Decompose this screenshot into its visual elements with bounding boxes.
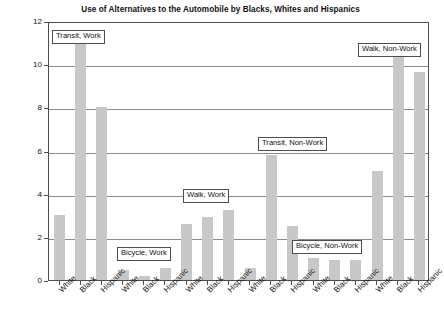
gridline xyxy=(49,66,428,67)
y-tick-label: 2 xyxy=(16,233,42,242)
plot-area xyxy=(48,22,429,281)
annotation-label: Walk, Work xyxy=(183,189,229,203)
bar xyxy=(414,72,425,280)
bar xyxy=(160,268,171,280)
bar xyxy=(223,210,234,280)
y-tick-mark xyxy=(44,281,48,282)
y-tick-label: 6 xyxy=(16,147,42,156)
annotation-label: Transit, Work xyxy=(52,30,105,44)
bar xyxy=(372,171,383,280)
bar xyxy=(75,36,86,280)
y-tick-label: 4 xyxy=(16,190,42,199)
bar xyxy=(266,155,277,280)
bar xyxy=(329,260,340,281)
y-tick-label: 8 xyxy=(16,103,42,112)
bar xyxy=(350,260,361,281)
bar xyxy=(393,49,404,280)
annotation-label: Bicycle, Non-Work xyxy=(292,240,362,254)
bar xyxy=(54,215,65,280)
annotation-label: Transit, Non-Work xyxy=(258,137,327,151)
bar xyxy=(202,217,213,280)
annotation-label: Bicycle, Work xyxy=(117,247,171,261)
bar xyxy=(96,107,107,280)
y-tick-label: 12 xyxy=(16,17,42,26)
y-tick-label: 0 xyxy=(16,276,42,285)
y-tick-label: 10 xyxy=(16,60,42,69)
chart-title: Use of Alternatives to the Automobile by… xyxy=(0,5,441,14)
annotation-label: Walk, Non-Work xyxy=(358,43,421,57)
